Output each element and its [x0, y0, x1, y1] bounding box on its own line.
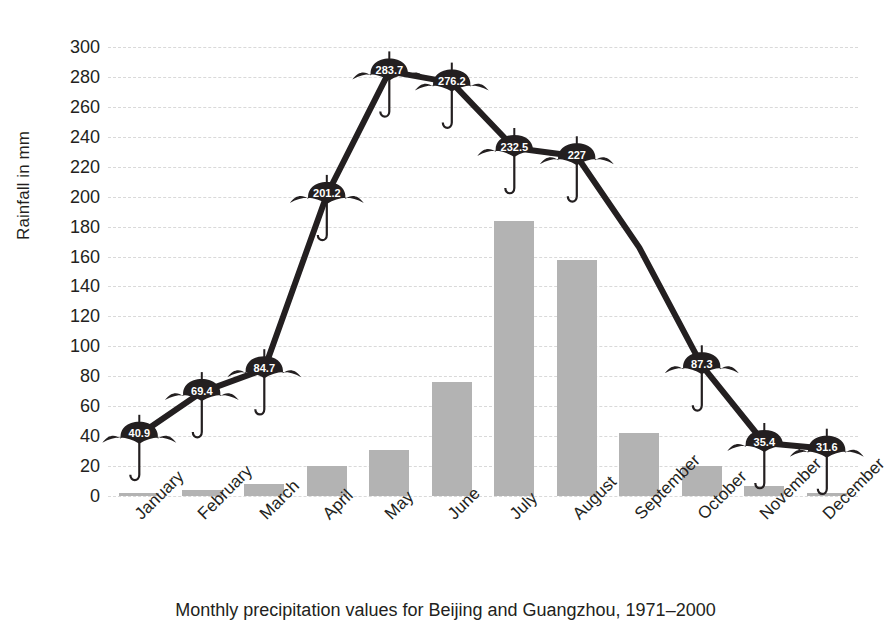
y-tick-label: 260	[44, 98, 100, 116]
data-point-label: 201.2	[313, 187, 341, 199]
umbrella-tip	[326, 175, 328, 184]
y-tick-label: 240	[44, 128, 100, 146]
umbrella-tip	[701, 345, 703, 354]
data-point-label: 31.6	[816, 441, 837, 453]
y-tick-label: 40	[44, 427, 100, 445]
umbrella-icon: 276.2	[415, 63, 489, 128]
data-point-label: 283.7	[376, 64, 404, 76]
umbrella-tip	[513, 128, 515, 137]
umbrella-tip	[763, 423, 765, 432]
umbrella-tip	[826, 429, 828, 438]
figure-caption: Monthly precipitation values for Beijing…	[0, 600, 891, 621]
x-axis-tick-labels: JanuaryFebruaryMarchAprilMayJuneJulyAugu…	[108, 502, 868, 597]
y-tick-label: 20	[44, 457, 100, 475]
data-point-label: 276.2	[438, 75, 466, 87]
umbrella-icon: 227	[540, 136, 614, 201]
umbrella-handle	[755, 449, 764, 488]
data-point-label: 87.3	[691, 358, 712, 370]
umbrella-handle	[130, 441, 139, 480]
umbrella-markers: 40.969.484.7201.2283.7276.2232.522787.33…	[108, 47, 858, 496]
umbrella-tip	[576, 136, 578, 145]
data-point-label: 227	[568, 149, 586, 161]
data-point-label: 69.4	[191, 385, 213, 397]
y-tick-label: 200	[44, 188, 100, 206]
umbrella-tip	[263, 349, 265, 358]
y-tick-label: 100	[44, 337, 100, 355]
data-point-label: 232.5	[501, 141, 529, 153]
y-tick-label: 280	[44, 68, 100, 86]
y-tick-label: 220	[44, 158, 100, 176]
umbrella-icon: 69.4	[165, 372, 239, 437]
data-point-label: 35.4	[754, 436, 776, 448]
umbrella-icon: 283.7	[352, 51, 426, 116]
umbrella-tip	[388, 51, 390, 60]
umbrella-handle	[693, 371, 702, 410]
y-tick-label: 300	[44, 38, 100, 56]
y-tick-label: 140	[44, 277, 100, 295]
umbrella-icon: 232.5	[477, 128, 551, 193]
y-tick-label: 180	[44, 218, 100, 236]
umbrella-handle	[380, 77, 389, 116]
umbrella-icon: 84.7	[227, 349, 301, 414]
y-axis-tick-labels: 0204060801001201401601802002202402602803…	[40, 0, 100, 638]
y-tick-label: 120	[44, 307, 100, 325]
umbrella-tip	[451, 63, 453, 72]
umbrella-tip	[138, 415, 140, 424]
umbrella-handle	[568, 162, 577, 201]
y-axis-title: Rainfall in mm	[14, 20, 34, 240]
data-point-label: 84.7	[254, 362, 275, 374]
umbrella-handle	[193, 398, 202, 437]
umbrella-handle	[255, 375, 264, 414]
umbrella-handle	[505, 154, 514, 193]
y-tick-label: 80	[44, 367, 100, 385]
precipitation-chart-figure: Rainfall in mm 0204060801001201401601802…	[0, 0, 891, 638]
umbrella-icon: 201.2	[290, 175, 364, 240]
y-tick-label: 60	[44, 397, 100, 415]
data-point-label: 40.9	[129, 427, 150, 439]
umbrella-tip	[201, 372, 203, 381]
y-tick-label: 160	[44, 248, 100, 266]
umbrella-handle	[443, 89, 452, 128]
y-tick-label: 0	[44, 487, 100, 505]
umbrella-icon: 87.3	[665, 345, 739, 410]
umbrella-handle	[318, 201, 327, 240]
umbrella-icon: 40.9	[102, 415, 176, 480]
plot-area: 40.969.484.7201.2283.7276.2232.522787.33…	[108, 47, 858, 496]
